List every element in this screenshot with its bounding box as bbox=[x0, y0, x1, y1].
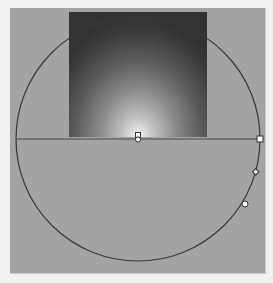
center-handle[interactable] bbox=[135, 137, 140, 142]
angle-handle[interactable] bbox=[253, 169, 259, 175]
aspect-handle[interactable] bbox=[242, 201, 248, 207]
radius-handle[interactable] bbox=[257, 136, 263, 142]
gradient-editor-canvas bbox=[0, 0, 273, 283]
gradient-annotator-overlay bbox=[0, 0, 273, 283]
